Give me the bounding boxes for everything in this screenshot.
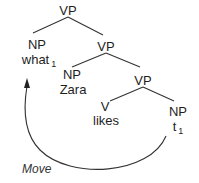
- edge-vp-low-v-likes: [110, 87, 143, 101]
- node-label: VP: [59, 3, 76, 18]
- node-label: NP: [169, 104, 187, 119]
- node-word-zara: Zara: [60, 83, 87, 96]
- node-np-trace: NP: [169, 105, 187, 118]
- word-text: Zara: [60, 82, 87, 97]
- edge-vp-low-np-trace: [143, 87, 174, 101]
- index-subscript: 1: [51, 59, 56, 69]
- node-np-zara: NP: [63, 68, 81, 81]
- index-subscript: 1: [178, 126, 183, 136]
- word-text: likes: [93, 113, 119, 128]
- node-word-what: what1: [22, 53, 56, 71]
- edge-vp-root-np-what: [33, 17, 68, 33]
- node-vp-root: VP: [59, 4, 76, 17]
- tree-edges: [0, 0, 199, 183]
- word-text: t: [173, 119, 177, 134]
- node-v-likes: V: [101, 100, 110, 113]
- word-text: what: [22, 52, 49, 67]
- node-label: NP: [63, 67, 81, 82]
- edge-vp-mid-np-zara: [72, 53, 106, 67]
- node-vp-low: VP: [134, 74, 151, 87]
- movement-label: Move: [22, 162, 51, 176]
- arrowhead-icon: [24, 78, 30, 88]
- node-np-what: NP: [28, 38, 46, 51]
- node-word-likes: likes: [93, 114, 119, 127]
- node-vp-mid: VP: [97, 40, 114, 53]
- edge-vp-mid-vp-low: [106, 53, 140, 67]
- node-label: VP: [97, 39, 114, 54]
- node-label: V: [101, 99, 110, 114]
- node-label: VP: [134, 73, 151, 88]
- node-label: NP: [28, 37, 46, 52]
- node-word-trace: t1: [173, 120, 184, 138]
- edge-vp-root-vp-mid: [68, 17, 103, 35]
